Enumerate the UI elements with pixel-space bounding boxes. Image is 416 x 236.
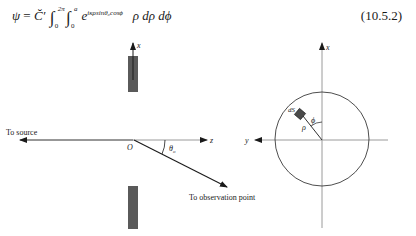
observation-direction-arrow — [134, 140, 227, 187]
x-axis-label: x — [136, 41, 141, 50]
theta-angle-arc — [162, 140, 165, 154]
source-label: To source — [6, 128, 38, 137]
x-axis-label-right: x — [325, 43, 330, 52]
y-axis-label: y — [244, 136, 249, 145]
diffraction-figure: x z To source O θo To observation point … — [0, 0, 416, 236]
z-axis-label: z — [209, 136, 214, 145]
side-view-figure: x z To source O θo To observation point — [6, 41, 256, 229]
aperture-screen-bottom — [128, 186, 138, 229]
theta-label: θo — [169, 144, 176, 154]
aperture-plane-figure: x y dS ρ ϕ — [244, 43, 388, 228]
phi-label: ϕ — [311, 116, 315, 125]
observation-label: To observation point — [189, 193, 256, 202]
surface-element-ds — [294, 108, 305, 119]
rho-label: ρ — [301, 123, 306, 132]
ds-label: dS — [288, 106, 296, 114]
origin-label: O — [127, 143, 133, 152]
